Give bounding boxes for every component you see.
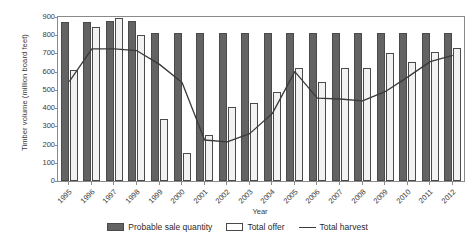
x-axis-tick-mark [429, 182, 430, 185]
x-axis-tick-mark [204, 182, 205, 185]
x-axis-title: Year [57, 207, 463, 216]
x-axis-tick-mark [249, 182, 250, 185]
y-axis-tick-label: 900 [42, 13, 55, 21]
x-axis-tick-label: 2002 [214, 188, 231, 205]
x-axis-tick-label: 1997 [102, 188, 119, 205]
x-axis-tick-label: 2008 [350, 188, 367, 205]
x-axis-tick-label: 2007 [327, 188, 344, 205]
x-axis-tick-mark [271, 182, 272, 185]
x-axis-tick-mark [407, 182, 408, 185]
legend-item-label: Probable sale quantity [128, 222, 212, 232]
x-axis-tick-mark [316, 182, 317, 185]
y-axis-tick-label: 400 [42, 104, 55, 112]
x-axis-tick-label: 2009 [372, 188, 389, 205]
x-axis-tick-label: 2012 [440, 188, 457, 205]
x-axis-tick-mark [136, 182, 137, 185]
x-axis-tick-label: 1998 [124, 188, 141, 205]
x-axis-tick-mark [159, 182, 160, 185]
y-axis-tick-label: 700 [42, 49, 55, 57]
x-axis-tick-mark [294, 182, 295, 185]
legend-item: Probable sale quantity [107, 222, 212, 232]
y-axis-tick-label: 100 [42, 159, 55, 167]
line-swatch-icon [299, 227, 316, 228]
x-axis-tick-label: 2000 [169, 188, 186, 205]
x-axis-tick-label: 2005 [282, 188, 299, 205]
x-axis-tick-mark [384, 182, 385, 185]
x-axis-tick-label: 2004 [260, 188, 277, 205]
x-axis-tick-label: 2010 [395, 188, 412, 205]
y-axis-title: Timber volume (million board feet) [20, 3, 29, 183]
y-axis-tick-label: 200 [42, 141, 55, 149]
y-axis-tick-label: 800 [42, 31, 55, 39]
x-axis-tick-label: 1996 [79, 188, 96, 205]
y-axis-tick-label: 300 [42, 122, 55, 130]
x-axis-tick-mark [452, 182, 453, 185]
x-axis-tick-label: 2006 [305, 188, 322, 205]
legend-item: Total harvest [299, 222, 368, 232]
x-axis-tick-mark [362, 182, 363, 185]
chart-legend: Probable sale quantityTotal offerTotal h… [0, 222, 475, 232]
legend-item: Total offer [226, 222, 284, 232]
y-axis-tick-label: 500 [42, 86, 55, 94]
y-axis-tick-label: 600 [42, 68, 55, 76]
x-axis-tick-label: 1999 [147, 188, 164, 205]
x-axis-tick-mark [68, 182, 69, 185]
x-axis-tick-label: 2001 [192, 188, 209, 205]
x-axis-tick-mark [339, 182, 340, 185]
x-axis-tick-mark [181, 182, 182, 185]
x-axis-tick-mark [113, 182, 114, 185]
total-harvest-line [58, 17, 464, 181]
x-axis-tick-label: 1995 [56, 188, 73, 205]
legend-item-label: Total offer [247, 222, 284, 232]
legend-item-label: Total harvest [320, 222, 368, 232]
x-axis-tick-label: 2011 [418, 188, 435, 205]
light-bar-swatch-icon [226, 223, 243, 231]
dark-bar-swatch-icon [107, 223, 124, 231]
plot-area: 9008007006005004003002001000 [57, 16, 465, 182]
timber-volume-chart: Timber volume (million board feet) 90080… [0, 0, 475, 245]
x-axis-tick-mark [91, 182, 92, 185]
x-axis-tick-mark [226, 182, 227, 185]
x-axis-tick-label: 2003 [237, 188, 254, 205]
